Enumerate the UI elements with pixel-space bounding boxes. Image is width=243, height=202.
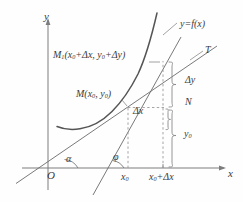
angle-phi-label: φ bbox=[113, 152, 119, 162]
axes-group bbox=[22, 18, 226, 190]
leader-curve-label bbox=[163, 23, 177, 35]
tick-label-x0: x0 bbox=[121, 172, 129, 183]
delta-y-label: Δy bbox=[185, 75, 195, 85]
leader-tangent-label bbox=[190, 51, 203, 60]
angle-alpha-label: α bbox=[66, 154, 71, 164]
y-naught-index: 0 bbox=[188, 132, 191, 139]
brace-y-naught bbox=[169, 110, 176, 167]
point-m1-middle: +Δx, y bbox=[75, 49, 102, 60]
origin-label: O bbox=[47, 170, 55, 181]
tick-x0-index: 0 bbox=[125, 175, 128, 182]
point-m1-label: M1(x0+Δx, y0+Δy) bbox=[53, 50, 125, 61]
tick-label-x0-plus-dx: x0+Δx bbox=[149, 172, 174, 183]
x-axis-arrowhead bbox=[219, 166, 226, 171]
y-axis-label: y bbox=[44, 11, 49, 22]
point-m-label: M(x0, y0) bbox=[76, 89, 111, 100]
point-m-open: M(x bbox=[76, 88, 92, 99]
leader-lines bbox=[122, 23, 203, 106]
tangent-line bbox=[16, 46, 217, 184]
point-m1-close: +Δy) bbox=[105, 49, 125, 60]
delta-x-label: Δx bbox=[133, 106, 143, 116]
leader-m-point bbox=[122, 100, 127, 106]
curve-function-label: y=f(x) bbox=[180, 19, 205, 29]
tangent-line-label: T bbox=[205, 45, 211, 55]
tick-x0dx-tail: +Δx bbox=[157, 171, 174, 182]
point-m-close: ) bbox=[108, 88, 111, 99]
derivative-diagram: y x O M1(x0+Δx, y0+Δy) M(x0, y0) y=f(x) … bbox=[0, 0, 243, 202]
point-m-middle: , y bbox=[95, 88, 104, 99]
point-n-label: N bbox=[185, 97, 192, 107]
x-axis-label: x bbox=[228, 168, 233, 179]
brace-delta-y bbox=[169, 62, 176, 107]
brace-delta-x bbox=[166, 109, 171, 130]
y-naught-label: y0 bbox=[184, 129, 192, 140]
